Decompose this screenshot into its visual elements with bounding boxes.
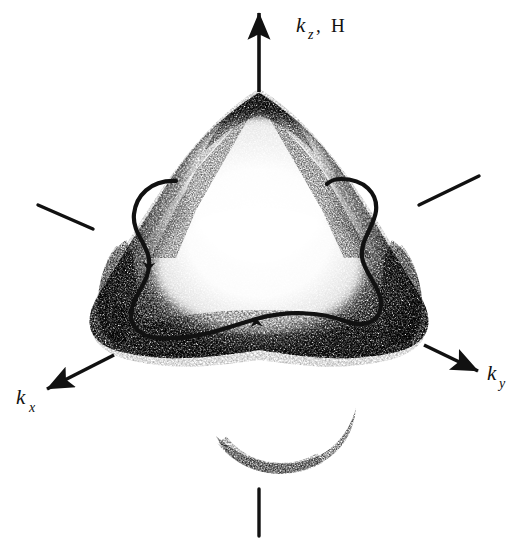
kz-axis-label: k z , H [296, 13, 345, 42]
kx-axis-arrow [47, 355, 114, 389]
ky-axis-label: k y [487, 361, 506, 391]
lower-crescent-lobe [216, 408, 356, 473]
kz-symbol: k [296, 13, 306, 37]
kx-subscript: x [28, 400, 36, 415]
kx-symbol: k [16, 385, 26, 409]
ky-subscript: y [497, 376, 506, 391]
kx-axis-label: k x [16, 385, 36, 415]
kz-extra: H [331, 15, 345, 36]
kz-separator: , [316, 15, 321, 36]
fermi-surface-figure: k z , H k y k x [0, 0, 524, 545]
tick-upper-right [419, 176, 479, 205]
ky-symbol: k [487, 361, 497, 385]
figure-canvas: k z , H k y k x [0, 0, 524, 545]
kz-subscript: z [307, 27, 314, 42]
tick-upper-left [38, 205, 93, 229]
fermi-surface-body [60, 80, 470, 473]
ky-axis-arrow [424, 345, 478, 371]
